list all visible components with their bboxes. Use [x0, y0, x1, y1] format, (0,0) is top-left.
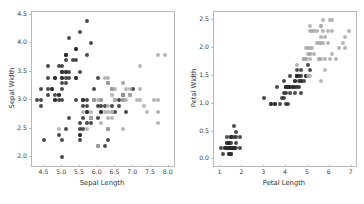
data-point — [288, 74, 292, 78]
y-tick-label: 2.0 — [188, 44, 209, 50]
data-point — [323, 68, 327, 72]
data-point — [113, 87, 117, 91]
data-point — [96, 104, 100, 108]
data-point — [306, 52, 310, 56]
x-tick-mark — [241, 165, 242, 167]
data-point — [121, 127, 125, 131]
data-point — [96, 76, 100, 80]
data-point — [234, 130, 238, 134]
data-point — [286, 102, 290, 106]
y-tick-mark — [29, 42, 31, 43]
data-point — [312, 52, 316, 56]
data-point — [53, 98, 57, 102]
data-point — [64, 81, 68, 85]
data-point — [234, 141, 238, 145]
data-point — [304, 46, 308, 50]
x-tick-mark — [307, 165, 308, 167]
data-point — [341, 41, 345, 45]
data-point — [89, 116, 93, 120]
x-tick-mark — [168, 165, 169, 167]
data-point — [278, 102, 282, 106]
data-point — [315, 29, 319, 33]
data-point — [124, 87, 128, 91]
data-point — [121, 93, 125, 97]
data-point — [60, 155, 64, 159]
x-axis-title-petal: Petal Length — [263, 180, 305, 187]
data-point — [85, 98, 89, 102]
data-point — [302, 57, 306, 61]
data-point — [67, 116, 71, 120]
x-tick-label: 2 — [239, 169, 243, 175]
data-point — [60, 87, 64, 91]
data-point — [85, 53, 89, 57]
data-point — [50, 87, 54, 91]
data-point — [42, 138, 46, 142]
data-point — [103, 144, 107, 148]
data-point — [96, 98, 100, 102]
data-point — [74, 47, 78, 51]
data-point — [319, 24, 323, 28]
data-point — [330, 18, 334, 22]
data-point — [117, 104, 121, 108]
subplot-petal: 12345670.00.51.01.52.02.5Petal LengthPet… — [182, 0, 364, 204]
data-point — [57, 127, 61, 131]
data-point — [78, 138, 82, 142]
data-point — [39, 104, 43, 108]
data-point — [53, 76, 57, 80]
x-tick-mark — [150, 165, 151, 167]
x-tick-mark — [220, 165, 221, 167]
data-point — [99, 98, 103, 102]
y-tick-mark — [211, 103, 213, 104]
data-point — [110, 93, 114, 97]
data-point — [347, 29, 351, 33]
data-point — [319, 41, 323, 45]
data-point — [330, 29, 334, 33]
data-point — [46, 76, 50, 80]
data-point — [39, 98, 43, 102]
data-point — [128, 93, 132, 97]
x-tick-mark — [351, 165, 352, 167]
data-point — [57, 64, 61, 68]
data-point — [78, 127, 82, 131]
x-axis-title-sepal: Sepal Length — [80, 180, 124, 187]
data-point — [238, 135, 242, 139]
x-tick-label: 8.0 — [163, 169, 173, 175]
y-tick-label: 2.0 — [6, 153, 27, 159]
subplot-sepal: 4.55.05.56.06.57.07.58.02.02.53.03.54.04… — [0, 0, 182, 204]
data-point — [138, 87, 142, 91]
data-point — [138, 64, 142, 68]
data-point — [99, 121, 103, 125]
data-point — [238, 146, 242, 150]
data-point — [60, 98, 64, 102]
data-point — [326, 41, 330, 45]
data-point — [113, 110, 117, 114]
axes-area-sepal — [31, 11, 175, 167]
data-point — [106, 81, 110, 85]
data-point — [121, 81, 125, 85]
data-point — [128, 87, 132, 91]
x-tick-label: 4 — [283, 169, 287, 175]
data-point — [145, 110, 149, 114]
data-point — [280, 96, 284, 100]
data-point — [232, 124, 236, 128]
x-tick-mark — [79, 165, 80, 167]
x-tick-mark — [329, 165, 330, 167]
y-tick-mark — [29, 14, 31, 15]
y-tick-mark — [29, 128, 31, 129]
data-point — [321, 29, 325, 33]
data-point — [138, 98, 142, 102]
data-point — [156, 53, 160, 57]
data-point — [163, 53, 167, 57]
data-point — [106, 127, 110, 131]
y-tick-label: 2.5 — [6, 125, 27, 131]
data-point — [302, 79, 306, 83]
data-point — [273, 102, 277, 106]
data-point — [64, 127, 68, 131]
data-point — [92, 87, 96, 91]
y-tick-mark — [29, 99, 31, 100]
y-tick-mark — [211, 47, 213, 48]
data-point — [269, 102, 273, 106]
x-tick-label: 1 — [218, 169, 222, 175]
x-tick-mark — [61, 165, 62, 167]
y-tick-label: 0.5 — [188, 127, 209, 133]
